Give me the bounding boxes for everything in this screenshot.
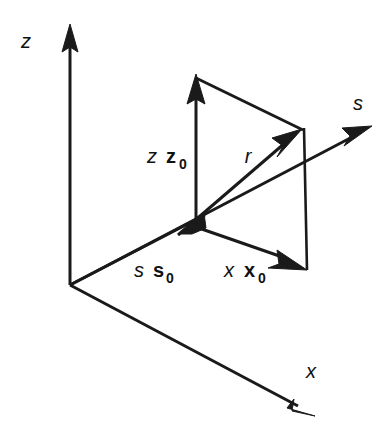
x-x0-label-bold: x <box>244 259 255 281</box>
z-z0-label-italic: z <box>146 145 157 167</box>
s-s0-label-subscript: 0 <box>166 270 174 286</box>
figure-container: z x s r z z 0 s s 0 x x 0 <box>0 0 386 443</box>
s-ray-label: s <box>353 92 363 114</box>
x-axis-label: x <box>305 360 317 382</box>
z-axis-label: z <box>20 30 31 52</box>
s-s0-label-bold: s <box>153 259 164 281</box>
s-s0-label-italic: s <box>134 259 144 281</box>
x-x0-label-subscript: 0 <box>258 270 266 286</box>
x-x0-label-italic: x <box>223 259 235 281</box>
z-z0-label-bold: z <box>166 145 176 167</box>
z-z0-label-subscript: 0 <box>179 156 187 172</box>
vector-geometry-diagram: z x s r z z 0 s s 0 x x 0 <box>0 0 386 443</box>
